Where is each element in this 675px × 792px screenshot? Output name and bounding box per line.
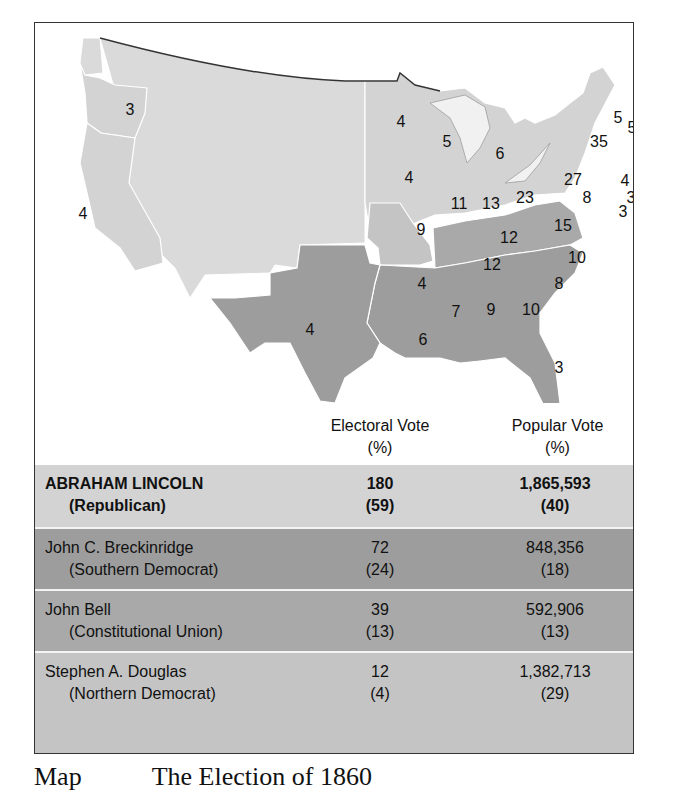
popular-votes: 1,382,713: [519, 663, 590, 680]
popular-vote-cell: 592,906 (13): [490, 599, 620, 643]
table-row-lincoln: ABRAHAM LINCOLN (Republican) 180 (59) 1,…: [35, 465, 634, 527]
popular-vote-header-title: Popular Vote: [512, 417, 604, 434]
label-illinois: 11: [451, 195, 468, 212]
label-pennsylvania: 27: [564, 171, 582, 188]
popular-votes: 1,865,593: [519, 475, 590, 492]
electoral-vote-cell: 72 (24): [325, 537, 435, 581]
figure-caption: MapThe Election of 1860: [34, 762, 372, 792]
electoral-pct: (4): [370, 685, 390, 702]
candidate-party: (Republican): [45, 495, 203, 517]
candidate-name-text: John Bell: [45, 601, 111, 618]
caption-prefix: Map: [34, 762, 82, 791]
electoral-votes: 12: [371, 663, 389, 680]
popular-pct: (40): [541, 497, 569, 514]
popular-vote-cell: 848,356 (18): [490, 537, 620, 581]
label-vermont: 5: [614, 109, 623, 126]
candidate-name: Stephen A. Douglas (Northern Democrat): [45, 661, 216, 705]
label-indiana: 13: [482, 195, 500, 212]
label-north-carolina: 10: [568, 249, 586, 266]
popular-votes: 592,906: [526, 601, 584, 618]
candidate-name-text: ABRAHAM LINCOLN: [45, 475, 203, 492]
washington-territory: [80, 38, 103, 75]
label-california: 4: [79, 205, 88, 222]
electoral-vote-header-title: Electoral Vote: [331, 417, 430, 434]
electoral-vote-cell: 12 (4): [325, 661, 435, 705]
label-oregon: 3: [126, 101, 135, 118]
label-minnesota: 4: [397, 113, 406, 130]
candidate-name: John C. Breckinridge (Southern Democrat): [45, 537, 218, 581]
candidate-party: (Constitutional Union): [45, 621, 223, 643]
electoral-votes: 39: [371, 601, 389, 618]
lower-south-breckinridge: [367, 245, 583, 403]
popular-vote-header: Popular Vote (%): [490, 415, 625, 459]
label-florida: 3: [555, 359, 564, 376]
label-georgia: 10: [522, 301, 540, 318]
label-new-york: 35: [590, 133, 608, 150]
label-new-jersey: 4: [621, 172, 630, 189]
electoral-votes: 72: [371, 539, 389, 556]
candidate-name-text: John C. Breckinridge: [45, 539, 194, 556]
electoral-pct: (24): [366, 561, 394, 578]
label-alabama: 9: [487, 301, 496, 318]
label-maryland-2: 3: [619, 203, 628, 220]
label-texas: 4: [306, 321, 315, 338]
candidate-name: John Bell (Constitutional Union): [45, 599, 223, 643]
table-row-breckinridge: John C. Breckinridge (Southern Democrat)…: [35, 527, 634, 589]
popular-pct: (13): [541, 623, 569, 640]
electoral-vote-header-unit: (%): [368, 439, 393, 456]
electoral-votes: 180: [367, 475, 394, 492]
candidate-party: (Northern Democrat): [45, 683, 216, 705]
us-election-map: 3 4 4 5 6 4 11 13 23 27 35 5 5 8 13 4 6 …: [35, 23, 634, 403]
label-iowa: 4: [405, 169, 414, 186]
label-tennessee: 12: [483, 256, 501, 273]
label-wisconsin: 5: [443, 133, 452, 150]
popular-vote-cell: 1,865,593 (40): [490, 473, 620, 517]
label-maryland: 8: [583, 189, 592, 206]
candidate-party: (Southern Democrat): [45, 559, 218, 581]
popular-votes: 848,356: [526, 539, 584, 556]
label-south-carolina: 8: [555, 275, 564, 292]
popular-pct: (18): [541, 561, 569, 578]
label-new-hampshire: 5: [628, 119, 634, 136]
popular-vote-header-unit: (%): [545, 439, 570, 456]
label-missouri: 9: [417, 221, 426, 238]
candidate-name-text: Stephen A. Douglas: [45, 663, 186, 680]
label-ohio: 23: [516, 189, 534, 206]
label-kentucky: 12: [500, 229, 518, 246]
label-louisiana: 6: [419, 331, 428, 348]
caption-text: The Election of 1860: [152, 762, 372, 791]
candidate-name: ABRAHAM LINCOLN (Republican): [45, 473, 203, 517]
election-map-figure: 3 4 4 5 6 4 11 13 23 27 35 5 5 8 13 4 6 …: [34, 22, 634, 754]
label-michigan: 6: [496, 145, 505, 162]
label-mississippi: 7: [452, 303, 461, 320]
electoral-vote-cell: 39 (13): [325, 599, 435, 643]
popular-pct: (29): [541, 685, 569, 702]
electoral-vote-cell: 180 (59): [325, 473, 435, 517]
label-arkansas: 4: [418, 275, 427, 292]
electoral-pct: (59): [366, 497, 394, 514]
electoral-vote-header: Electoral Vote (%): [315, 415, 445, 459]
popular-vote-cell: 1,382,713 (29): [490, 661, 620, 705]
table-row-douglas: Stephen A. Douglas (Northern Democrat) 1…: [35, 651, 634, 754]
label-virginia: 15: [554, 217, 572, 234]
label-delaware: 3: [627, 189, 634, 206]
electoral-pct: (13): [366, 623, 394, 640]
table-row-bell: John Bell (Constitutional Union) 39 (13)…: [35, 589, 634, 651]
